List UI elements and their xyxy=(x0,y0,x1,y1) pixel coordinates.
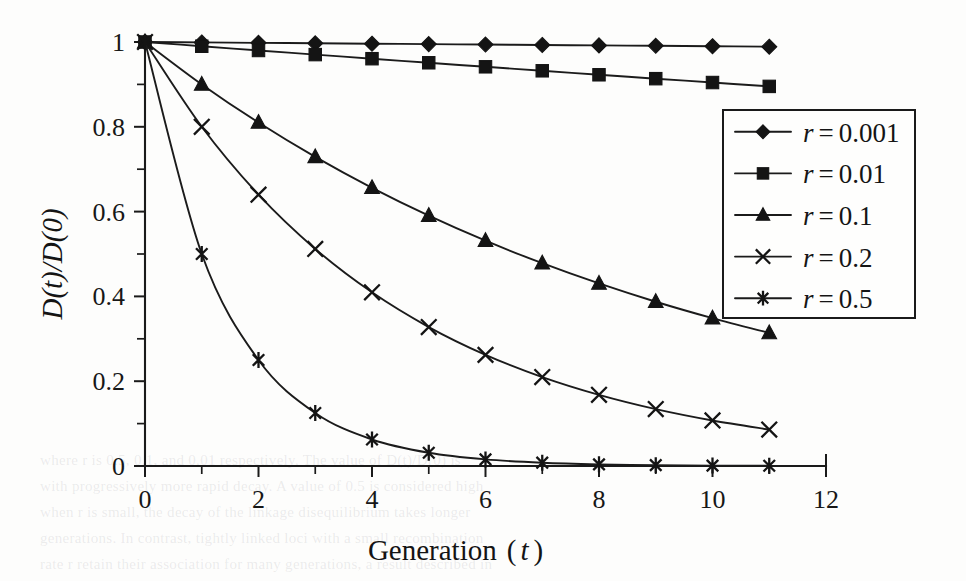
marker-cross xyxy=(478,347,494,363)
x-axis-title-close-paren: ) xyxy=(533,534,543,567)
marker-square xyxy=(196,40,208,52)
marker-square xyxy=(593,69,605,81)
legend-equals: = xyxy=(819,201,834,231)
series-cross xyxy=(137,34,777,437)
y-axis-title: D(t)/D(0) xyxy=(36,208,69,320)
marker-square xyxy=(706,76,718,88)
marker-square xyxy=(536,65,548,77)
chart-legend[interactable]: r=0.001r=0.01r=0.1r=0.2r=0.5 xyxy=(723,110,915,318)
marker-diamond xyxy=(365,36,380,51)
legend-variable: r xyxy=(803,159,814,189)
series-curve xyxy=(145,42,769,466)
legend-value: 0.2 xyxy=(839,243,873,273)
marker-square xyxy=(366,53,378,65)
marker-triangle xyxy=(308,149,323,163)
marker-asterisk xyxy=(366,432,378,448)
x-tick-label: 6 xyxy=(479,485,492,514)
x-tick-label: 4 xyxy=(366,485,379,514)
marker-asterisk xyxy=(253,352,265,368)
marker-diamond xyxy=(535,37,550,52)
y-tick-label: 0.6 xyxy=(93,198,126,227)
x-tick-label: 0 xyxy=(139,485,152,514)
legend-variable: r xyxy=(803,243,814,273)
legend-equals: = xyxy=(819,243,834,273)
legend-variable: r xyxy=(803,284,814,314)
legend-variable: r xyxy=(803,118,814,148)
marker-square xyxy=(650,72,662,84)
marker-cross xyxy=(534,369,550,385)
marker-asterisk xyxy=(309,405,321,421)
marker-square xyxy=(763,80,775,92)
marker-asterisk xyxy=(196,246,208,262)
marker-cross xyxy=(307,241,323,257)
marker-triangle xyxy=(251,115,266,129)
x-axis-title-main: Generation xyxy=(368,534,497,566)
marker-diamond xyxy=(762,39,777,54)
marker-square xyxy=(757,168,768,179)
y-tick-label: 1 xyxy=(112,28,125,57)
decay-chart: 00.20.40.60.81024681012 r=0.001r=0.01r=0… xyxy=(0,0,966,581)
marker-triangle xyxy=(194,76,209,90)
x-tick-label: 8 xyxy=(593,485,606,514)
series-curve xyxy=(145,42,769,333)
marker-cross xyxy=(194,119,210,135)
legend-value: 0.01 xyxy=(839,159,886,189)
marker-square xyxy=(479,61,491,73)
y-tick-label: 0.4 xyxy=(93,282,126,311)
marker-square xyxy=(252,44,264,56)
x-axis-title-open-paren: ( xyxy=(507,534,517,567)
y-tick-label: 0.2 xyxy=(93,367,126,396)
legend-value: 0.5 xyxy=(839,284,873,314)
x-tick-label: 10 xyxy=(700,485,726,514)
marker-cross xyxy=(364,285,380,301)
x-tick-label: 12 xyxy=(813,485,839,514)
marker-triangle xyxy=(421,208,436,222)
legend-equals: = xyxy=(819,118,834,148)
x-axis-title: Generation(t) xyxy=(368,534,543,567)
series-curve xyxy=(145,42,769,47)
marker-diamond xyxy=(421,37,436,52)
x-axis-title-variable: t xyxy=(520,534,529,566)
legend-value: 0.001 xyxy=(839,118,900,148)
marker-square xyxy=(423,57,435,69)
legend-equals: = xyxy=(819,159,834,189)
x-tick-label: 2 xyxy=(252,485,265,514)
y-tick-label: 0.8 xyxy=(93,113,126,142)
series-diamond xyxy=(138,35,777,55)
legend-variable: r xyxy=(803,201,814,231)
marker-diamond xyxy=(648,38,663,53)
series-asterisk xyxy=(139,34,775,474)
marker-triangle xyxy=(478,233,493,247)
legend-equals: = xyxy=(819,284,834,314)
marker-cross xyxy=(421,319,437,335)
marker-triangle xyxy=(365,180,380,194)
series-curve xyxy=(145,42,769,430)
figure-page: where r is 0.5, 0.1, and 0.01 respective… xyxy=(0,0,966,581)
legend-value: 0.1 xyxy=(839,201,873,231)
marker-cross xyxy=(648,401,664,417)
series-curve xyxy=(145,42,769,86)
marker-cross xyxy=(251,187,267,203)
marker-diamond xyxy=(478,37,493,52)
marker-diamond xyxy=(705,39,720,54)
marker-cross xyxy=(591,387,607,403)
data-series xyxy=(137,34,777,474)
y-tick-label: 0 xyxy=(112,452,125,481)
marker-diamond xyxy=(592,38,607,53)
marker-square xyxy=(309,48,321,60)
